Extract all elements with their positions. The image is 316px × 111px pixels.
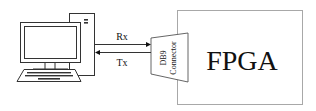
fpga-block: FPGA: [178, 11, 303, 105]
fpga-label: FPGA: [206, 45, 278, 76]
connector-label-db9: DB9: [159, 50, 168, 65]
rx-label: Rx: [116, 31, 128, 42]
computer-icon: [17, 14, 95, 82]
tx-label: Tx: [116, 57, 127, 68]
connector-label-connector: Connector: [169, 41, 178, 75]
tx-link: Tx: [95, 50, 151, 68]
rx-link: Rx: [95, 31, 151, 47]
db9-connector: DB9 Connector: [151, 33, 188, 82]
